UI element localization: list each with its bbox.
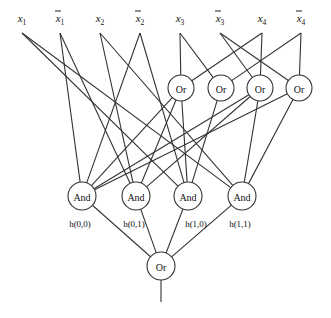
or-gate-or2-label: Or <box>216 84 227 95</box>
wire-and01-orOut <box>141 209 157 253</box>
h-label-and10: h(1,0) <box>185 219 207 229</box>
or-gate-or4-label: Or <box>294 84 305 95</box>
output-or-gate-label: Or <box>156 262 167 273</box>
wire-and10-orOut <box>166 209 183 253</box>
input-label-nx1: x1 <box>55 12 65 27</box>
gates: OrOrOrOrAndAndAndAndOr <box>68 75 312 280</box>
output-or-gate: Or <box>147 252 175 280</box>
wires <box>22 33 301 257</box>
or-gate-or1: Or <box>168 75 194 101</box>
or-gate-or3-label: Or <box>255 84 266 95</box>
or-gate-or3: Or <box>247 75 273 101</box>
wire-or2-and10 <box>192 100 217 182</box>
wire-nx3-or3 <box>220 33 252 77</box>
input-label-x3: x3 <box>175 12 185 27</box>
wire-x4-or3 <box>260 33 262 75</box>
or-gate-or4: Or <box>286 75 312 101</box>
wire-nx3-or4 <box>220 33 288 81</box>
wire-x3-or1 <box>180 33 181 75</box>
and-gate-and01: And <box>122 182 150 210</box>
and-gate-and10: And <box>174 182 202 210</box>
wire-and11-orOut <box>172 205 232 257</box>
input-label-x2: x2 <box>95 12 105 27</box>
wire-x1-and11 <box>22 33 231 188</box>
or-gate-or2: Or <box>208 75 234 101</box>
h-label-and00: h(0,0) <box>69 219 91 229</box>
wire-or1-and00 <box>91 98 172 186</box>
input-label-nx3: x3 <box>215 12 225 27</box>
and-gate-and10-label: And <box>179 192 196 203</box>
and-gate-and00: And <box>68 182 96 210</box>
and-gate-and01-label: And <box>127 192 144 203</box>
wire-nx4-or4 <box>299 33 301 75</box>
logic-circuit-diagram: x1x1x2x2x3x3x4x4 OrOrOrOrAndAndAndAndOr … <box>0 0 331 318</box>
wire-nx4-or2 <box>232 33 301 81</box>
and-gate-and00-label: And <box>73 192 90 203</box>
and-output-labels: h(0,0)h(0,1)h(1,0)h(1,1) <box>69 219 251 229</box>
wire-x4-or1 <box>192 33 262 81</box>
wire-or3-and01 <box>147 97 251 187</box>
wire-x1-and10 <box>22 33 178 186</box>
h-label-and01: h(0,1) <box>123 219 145 229</box>
wire-or4-and11 <box>249 99 293 183</box>
input-label-x1: x1 <box>17 12 27 27</box>
input-label-nx2: x2 <box>135 12 145 27</box>
input-label-nx4: x4 <box>296 12 306 27</box>
input-label-x4: x4 <box>257 12 267 27</box>
or-gate-or1-label: Or <box>176 84 187 95</box>
and-gate-and11-label: And <box>233 192 250 203</box>
wire-x2-and01 <box>100 33 133 182</box>
wire-or1-and10 <box>182 101 187 182</box>
input-labels: x1x1x2x2x3x3x4x4 <box>17 11 306 27</box>
and-gate-and11: And <box>228 182 256 210</box>
wire-x3-or2 <box>180 33 213 78</box>
h-label-and11: h(1,1) <box>229 219 251 229</box>
